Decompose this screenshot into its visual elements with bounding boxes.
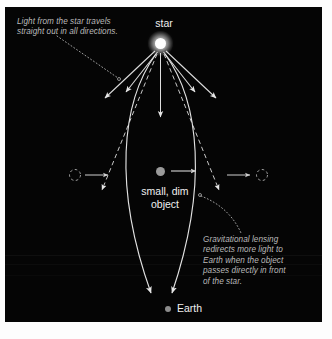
- lens-object-label: small, dim object: [115, 185, 215, 210]
- earth-label: Earth: [177, 302, 237, 314]
- earth-icon: [165, 306, 171, 312]
- annotation-light-travel: Light from the star travels straight out…: [17, 17, 167, 38]
- object-ghost-right-icon: [257, 170, 268, 181]
- leader-line-top-left: [57, 36, 118, 78]
- straight-ray-group: [105, 51, 216, 117]
- curved-ray-left: [126, 54, 156, 293]
- curved-ray-right: [165, 54, 195, 293]
- star-icon: [155, 38, 166, 49]
- annotation-gravitational-lensing: Gravitational lensing redirects more lig…: [203, 235, 321, 287]
- leader-endpoint-top-left: [118, 78, 121, 81]
- object-ghost-left-icon: [70, 170, 81, 181]
- lens-object-icon: [156, 167, 165, 176]
- figure-caption: [0, 330, 332, 339]
- figure-root: star small, dim object Earth Light from …: [0, 0, 332, 339]
- ray-far-right: [166, 51, 216, 98]
- ray-far-left: [105, 51, 155, 98]
- diagram-panel: star small, dim object Earth Light from …: [5, 7, 322, 322]
- object-motion-group: [70, 170, 268, 181]
